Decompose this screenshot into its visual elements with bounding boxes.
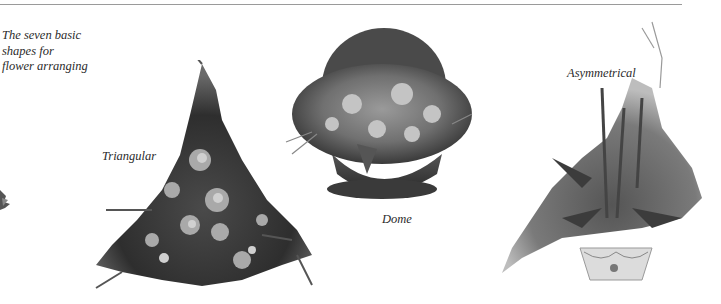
dome-caption: Dome [382, 211, 412, 227]
intro-line-2: shapes for [2, 44, 112, 60]
asymmetrical-caption: Asymmetrical [567, 65, 636, 81]
partial-arrangement-photo [0, 180, 14, 220]
triangular-arrangement-photo [92, 60, 314, 296]
asymmetrical-arrangement-photo [492, 18, 702, 288]
triangular-caption: Triangular [102, 148, 156, 164]
dome-arrangement-photo [282, 14, 482, 204]
intro-line-1: The seven basic [2, 28, 112, 44]
top-rule [0, 4, 682, 5]
